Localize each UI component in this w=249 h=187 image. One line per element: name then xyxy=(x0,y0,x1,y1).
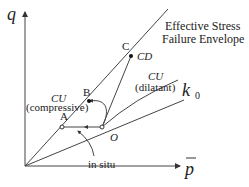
point-b-label: B xyxy=(83,86,90,98)
k0-subscript: 0 xyxy=(195,90,200,101)
point-a-marker xyxy=(60,125,64,129)
point-c-marker xyxy=(129,54,133,58)
point-a-label: A xyxy=(60,110,68,122)
point-o-label: O xyxy=(110,131,118,143)
cu-compressive-path xyxy=(90,101,106,127)
in-situ-label: in situ xyxy=(88,158,116,170)
envelope-label-line2: Failure Envelope xyxy=(162,32,244,46)
x-axis-label-text: p xyxy=(183,159,194,179)
stress-path-diagram: q p Effective Stress Failure Envelope k … xyxy=(0,0,249,187)
envelope-label-line1: Effective Stress xyxy=(165,19,241,33)
cd-label: CD xyxy=(137,50,152,62)
y-axis-label: q xyxy=(7,4,16,24)
point-c-label: C xyxy=(122,40,129,52)
cu-dilatant-label-2: (dilatant) xyxy=(135,81,176,94)
x-axis-label: p xyxy=(183,158,196,179)
k0-label: k xyxy=(182,80,191,100)
cu-compressive-label-2: (compressive) xyxy=(26,101,89,114)
point-o-marker xyxy=(100,125,104,129)
